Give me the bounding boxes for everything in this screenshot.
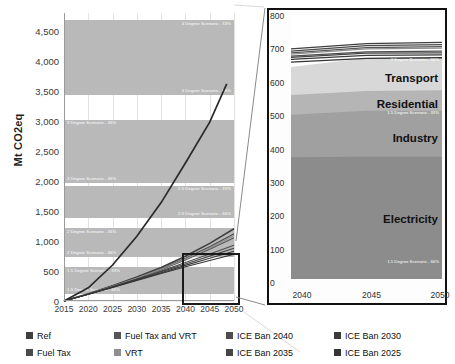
y-tick-label: 4,500 [35,26,59,37]
inset-scenario-curves [291,16,442,279]
inset-x-tick-label: 2040 [293,290,312,300]
x-tick-label: 2030 [127,304,146,314]
inset-y-tick-label: 700 [270,44,284,54]
y-axis-title: Mt CO2eq [12,80,24,200]
legend-item[interactable]: VRT [114,344,226,361]
legend-item[interactable]: ICE Ban 2040 [226,327,334,344]
legend-swatch-icon [114,349,121,356]
legend-label: VRT [125,348,143,358]
legend-swatch-icon [226,349,233,356]
y-tick-label: 1,500 [35,206,59,217]
sector-label-industry: Industry [393,132,438,144]
sector-label-residential: Residential [377,98,438,110]
legend-swatch-icon [26,349,33,356]
inset-budget-band-label: 1.5 Degree Scenario - 33% [387,111,439,115]
x-tick-label: 2025 [103,304,122,314]
x-tick-label: 2020 [79,304,98,314]
legend-item[interactable]: Fuel Tax and VRT [114,327,226,344]
legend-label: ICE Ban 2040 [237,331,293,341]
legend-item[interactable]: ICE Ban 2030 [334,327,434,344]
inset-selection-box [182,253,240,305]
legend-label: Ref [37,331,51,341]
y-tick-label: 2,000 [35,176,59,187]
inset-y-tick-label: 300 [270,178,284,188]
sector-label-electricity: Electricity [383,213,438,225]
legend-swatch-icon [334,349,341,356]
legend-item[interactable]: ICE Ban 2035 [226,344,334,361]
inset-x-tick-label: 2050 [431,290,450,300]
inset-y-tick-label: 0 [270,278,275,288]
inset-budget-band-label: 1.5 Degree Scenario - 66% [387,260,439,264]
inset-y-tick-label: 800 [270,11,284,21]
x-tick-label: 2045 [200,304,219,314]
x-tick-label: 2050 [225,304,244,314]
legend-swatch-icon [26,332,33,339]
legend-label: Fuel Tax and VRT [125,331,197,341]
x-tick-label: 2035 [152,304,171,314]
sector-label-transport: Transport [385,72,438,84]
inset-x-tick-label: 2045 [362,290,381,300]
legend-item[interactable]: Fuel Tax [26,344,114,361]
legend-swatch-icon [114,332,121,339]
inset-y-tick-label: 100 [270,245,284,255]
legend-label: Fuel Tax [37,348,71,358]
y-tick-label: 3,500 [35,86,59,97]
legend-label: ICE Ban 2025 [345,348,401,358]
legend-swatch-icon [334,332,341,339]
y-tick-label: 500 [43,266,59,277]
y-axis-line [64,13,65,301]
inset-chart-panel: TransportResidentialIndustryElectricity … [267,8,447,305]
legend-swatch-icon [226,332,233,339]
inset-y-tick-label: 400 [270,145,284,155]
inset-y-tick-label: 600 [270,78,284,88]
inset-budget-band-label: 2 Degree Scenario - 66% [391,58,439,62]
legend-item[interactable]: ICE Ban 2025 [334,344,434,361]
inset-y-tick-label: 500 [270,111,284,121]
emissions-figure: Mt CO2eq 05001,0001,5002,0002,5003,0003,… [0,0,455,364]
main-chart-panel: 05001,0001,5002,0002,5003,0003,5004,0004… [64,13,234,301]
x-tick-label: 2015 [55,304,74,314]
x-tick-label: 2040 [176,304,195,314]
y-tick-label: 3,000 [35,116,59,127]
legend-item[interactable]: Ref [26,327,114,344]
inset-y-tick-label: 200 [270,211,284,221]
legend-label: ICE Ban 2030 [345,331,401,341]
y-tick-label: 2,500 [35,146,59,157]
legend-label: ICE Ban 2035 [237,348,293,358]
y-tick-label: 4,000 [35,56,59,67]
y-tick-label: 1,000 [35,236,59,247]
chart-legend: RefFuel Tax and VRTICE Ban 2040ICE Ban 2… [26,327,426,361]
